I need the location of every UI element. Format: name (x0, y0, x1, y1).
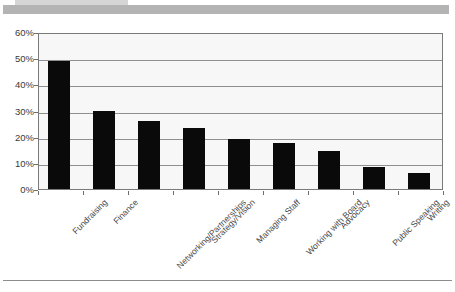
x-axis-tick-mark (83, 191, 84, 195)
bar-advocacy (318, 151, 340, 189)
x-axis-label-text: Managing Staff (255, 198, 302, 245)
x-axis-label-managing-staff: Managing Staff (255, 198, 302, 245)
x-axis-tick-mark (353, 191, 354, 195)
x-axis-label-fundraising: Fundraising (71, 198, 109, 236)
x-axis-label-text: Fundraising (71, 198, 109, 236)
y-axis-tick-label: 10% (0, 159, 34, 169)
y-axis-tick-label: 40% (0, 81, 34, 91)
x-axis-tick-mark (398, 191, 399, 195)
bar-public-speaking (363, 167, 385, 189)
plot-area (38, 33, 443, 190)
x-axis-label-text: Public Speaking (391, 198, 441, 248)
x-axis-tick-mark (173, 191, 174, 195)
gridline (39, 60, 442, 61)
x-axis-tick-mark (263, 191, 264, 195)
x-axis-tick-mark (443, 191, 444, 195)
bar-networking-partnerships (138, 121, 160, 189)
bar-strategy-vision (183, 128, 205, 189)
bar-chart: 60% 50% 40% 30% 20% 10% 0% (0, 18, 455, 280)
x-axis-tick-mark (308, 191, 309, 195)
y-axis-tick-label: 0% (0, 185, 34, 195)
plot-inner (39, 34, 442, 189)
y-axis-tick-label: 30% (0, 107, 34, 117)
y-axis-tick-label: 50% (0, 54, 34, 64)
bar-fundraising (48, 61, 70, 189)
bottom-divider (3, 280, 452, 281)
x-axis-tick-mark (218, 191, 219, 195)
x-axis-tick-mark (128, 191, 129, 195)
y-axis-tick-label: 20% (0, 133, 34, 143)
banner-dark-band (3, 5, 449, 14)
bar-working-with-board (273, 143, 295, 189)
x-axis-label-finance: Finance (112, 198, 140, 226)
y-axis-tick-label: 60% (0, 28, 34, 38)
bar-finance (93, 111, 115, 190)
gridline (39, 86, 442, 87)
x-axis-tick-mark (38, 191, 39, 195)
bar-managing-staff (228, 139, 250, 189)
x-axis-label-public-speaking: Public Speaking (391, 198, 441, 248)
x-axis-label-text: Finance (112, 198, 140, 226)
bar-writing (408, 173, 430, 189)
